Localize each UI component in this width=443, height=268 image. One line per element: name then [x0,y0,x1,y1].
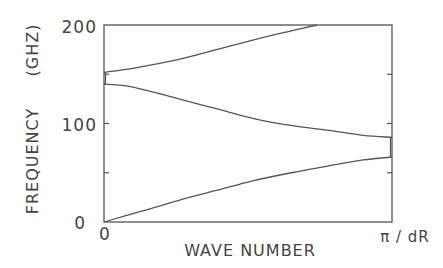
x-tick-label-0: 0 [99,224,111,244]
y-tick-label-0: 0 [74,213,86,233]
curve-upper-branch [104,25,317,72]
plot-frame [104,25,392,222]
dispersion-curves [104,25,392,222]
x-tick-label-pi-over-dr: π / dR [380,228,430,246]
y-tick-label-200: 200 [62,17,97,37]
y-axis-ticks [104,72,392,172]
curve-middle-branch [104,84,392,137]
y-axis-label-frequency: FREQUENCY [23,108,42,214]
y-tick-label-100: 100 [62,115,97,135]
dispersion-chart: 200 100 0 0 π / dR WAVE NUMBER FREQUENCY… [0,0,443,268]
y-axis-label-unit: (GHZ) [23,24,42,77]
curve-lower-branch [104,157,392,222]
x-axis-label: WAVE NUMBER [184,241,316,260]
